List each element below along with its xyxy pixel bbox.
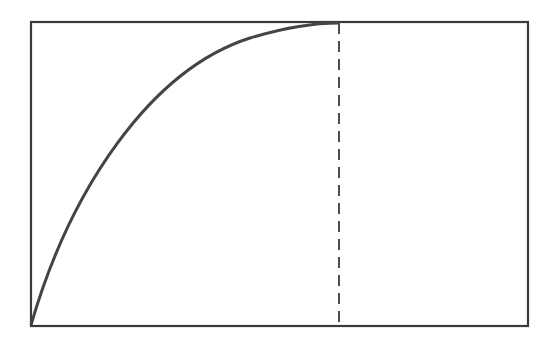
curve (31, 23, 339, 325)
outer-rectangle (31, 22, 528, 326)
diagram-canvas (0, 0, 557, 342)
